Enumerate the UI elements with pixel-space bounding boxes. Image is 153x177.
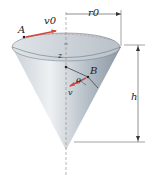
label-theta: θ	[76, 78, 81, 86]
label-r0: r0	[88, 8, 99, 18]
label-v: v	[68, 89, 73, 97]
label-b: B	[90, 66, 97, 76]
label-v0: v0	[44, 16, 56, 26]
label-h: h	[131, 92, 137, 102]
label-a: A	[18, 25, 25, 35]
label-z: z	[58, 52, 62, 60]
point-a-dot	[23, 36, 26, 39]
cone-surface	[12, 47, 121, 150]
